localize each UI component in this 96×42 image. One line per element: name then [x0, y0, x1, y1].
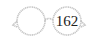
view-count: 162: [51, 11, 83, 31]
